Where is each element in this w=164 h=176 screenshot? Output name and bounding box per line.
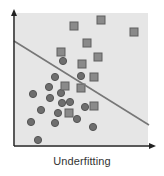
circle-point — [66, 98, 73, 105]
square-point — [130, 28, 138, 36]
circle-point — [27, 118, 34, 125]
circle-point — [54, 109, 61, 116]
circle-point — [51, 119, 58, 126]
circle-point — [37, 106, 44, 113]
circle-point — [58, 99, 65, 106]
square-point — [70, 22, 78, 30]
circle-point — [77, 72, 84, 79]
square-point — [78, 60, 86, 68]
circle-point — [81, 103, 88, 110]
square-point — [90, 73, 98, 81]
figure-caption: Underfitting — [0, 155, 164, 167]
square-point — [83, 39, 91, 47]
square-point — [97, 16, 105, 24]
circle-point — [34, 136, 41, 143]
x-axis-arrow-icon — [149, 143, 156, 149]
square-point — [57, 48, 65, 56]
square-point — [65, 109, 73, 117]
circle-point — [73, 115, 80, 122]
circle-point — [51, 73, 58, 80]
circle-point — [89, 123, 96, 130]
circle-point — [59, 57, 66, 64]
y-axis-arrow-icon — [11, 9, 17, 16]
circle-point — [45, 83, 52, 90]
square-point — [61, 82, 69, 90]
circle-point — [29, 90, 36, 97]
square-point — [94, 53, 102, 61]
scatter-plot — [0, 0, 164, 176]
square-point — [90, 102, 98, 110]
circle-point — [46, 94, 53, 101]
